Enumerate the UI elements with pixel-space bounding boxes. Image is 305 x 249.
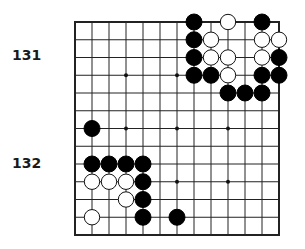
black-stone	[118, 156, 134, 172]
black-stone	[135, 174, 151, 190]
black-stone	[84, 121, 100, 137]
white-stone	[118, 174, 133, 189]
white-stone	[220, 14, 235, 29]
white-stone	[203, 50, 218, 65]
black-stone	[101, 156, 117, 172]
star-point	[175, 127, 179, 131]
white-stone	[271, 32, 286, 47]
white-stone	[220, 50, 235, 65]
white-stone	[101, 174, 116, 189]
star-point	[124, 127, 128, 131]
go-board	[0, 0, 305, 249]
stones	[84, 14, 287, 225]
white-stone	[203, 32, 218, 47]
black-stone	[84, 156, 100, 172]
black-stone	[254, 67, 270, 83]
black-stone	[271, 50, 287, 66]
black-stone	[135, 192, 151, 208]
white-stone	[84, 210, 99, 225]
white-stone	[254, 50, 269, 65]
star-point	[175, 73, 179, 77]
white-stone	[254, 32, 269, 47]
black-stone	[254, 85, 270, 101]
white-stone	[84, 174, 99, 189]
black-stone	[186, 32, 202, 48]
black-stone	[186, 14, 202, 30]
black-stone	[271, 67, 287, 83]
star-point	[175, 180, 179, 184]
black-stone	[186, 50, 202, 66]
black-stone	[203, 67, 219, 83]
black-stone	[237, 85, 253, 101]
black-stone	[186, 67, 202, 83]
star-point	[226, 180, 230, 184]
black-stone	[135, 209, 151, 225]
white-stone	[118, 192, 133, 207]
star-point	[226, 127, 230, 131]
black-stone	[169, 209, 185, 225]
white-stone	[220, 68, 235, 83]
black-stone	[220, 85, 236, 101]
black-stone	[254, 14, 270, 30]
star-point	[124, 73, 128, 77]
black-stone	[135, 156, 151, 172]
